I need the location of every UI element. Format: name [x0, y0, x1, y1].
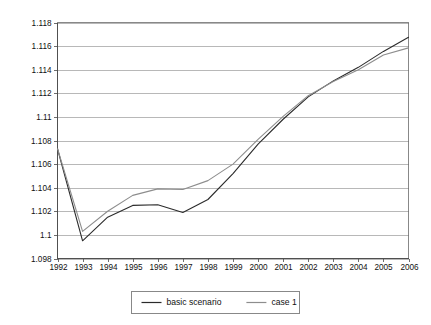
- x-tick-label: 1993: [74, 263, 93, 272]
- chart-background: [0, 0, 431, 325]
- x-tick-label: 1999: [224, 263, 243, 272]
- chart-legend: basic scenariocase 1: [132, 292, 300, 314]
- x-tick-label: 2006: [400, 263, 419, 272]
- line-chart-figure: 1.1181.1161.1141.1121.111.1081.1061.1041…: [0, 0, 431, 325]
- y-tick-label: 1.116: [32, 42, 52, 51]
- y-tick-label: 1.118: [32, 19, 52, 28]
- x-tick-label: 1997: [174, 263, 193, 272]
- x-tick-label: 1998: [199, 263, 218, 272]
- legend-label-case-1: case 1: [271, 297, 297, 307]
- legend-label-basic-scenario: basic scenario: [167, 297, 222, 307]
- y-tick-label: 1.11: [36, 113, 52, 122]
- x-tick-label: 1996: [149, 263, 168, 272]
- x-tick-label: 2001: [274, 263, 293, 272]
- y-tick-label: 1.114: [32, 66, 52, 75]
- x-tick-label: 2000: [249, 263, 268, 272]
- x-tick-label: 2002: [299, 263, 318, 272]
- x-tick-label: 1995: [124, 263, 143, 272]
- x-tick-label: 2003: [324, 263, 343, 272]
- y-tick-label: 1.104: [31, 184, 52, 193]
- x-tick-label: 1992: [49, 263, 68, 272]
- x-tick-label: 1994: [99, 263, 118, 272]
- chart-canvas: 1.1181.1161.1141.1121.111.1081.1061.1041…: [0, 0, 431, 325]
- y-tick-label: 1.112: [32, 89, 52, 98]
- y-tick-label: 1.108: [31, 137, 52, 146]
- x-tick-label: 2004: [349, 263, 368, 272]
- x-tick-label: 2005: [374, 263, 393, 272]
- y-tick-label: 1.1: [40, 231, 52, 240]
- y-tick-label: 1.102: [31, 207, 52, 216]
- y-tick-label: 1.106: [31, 160, 52, 169]
